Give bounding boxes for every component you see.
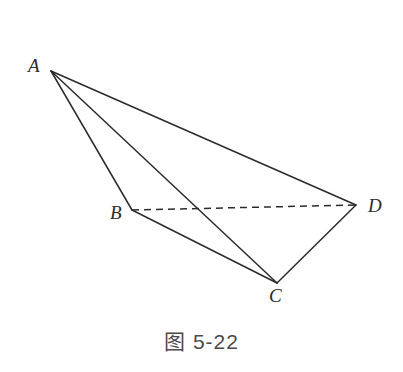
edge-AC [51, 71, 277, 283]
edge-CD [277, 205, 356, 283]
geometry-canvas [0, 0, 403, 372]
vertex-label-a: A [28, 56, 40, 75]
edge-AB [51, 71, 132, 210]
vertex-label-c: C [269, 286, 282, 305]
edge-BD-hidden-dashed [132, 205, 356, 210]
vertex-label-b: B [110, 203, 122, 222]
figure-caption: 图 5-22 [0, 325, 403, 355]
edge-BC [132, 210, 277, 283]
tetrahedron-figure: A B C D 图 5-22 [0, 0, 403, 372]
edge-AD [51, 71, 356, 205]
vertex-label-d: D [368, 196, 382, 215]
